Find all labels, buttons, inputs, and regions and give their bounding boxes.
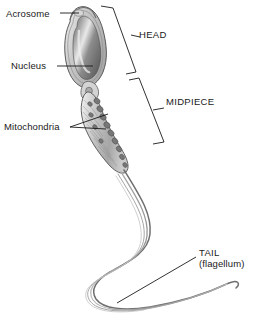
head-bracket (101, 6, 136, 74)
tail-strand-mid (91, 172, 227, 310)
label-head: HEAD (139, 29, 167, 40)
tail-strand-inner (88, 174, 225, 311)
sperm-cell-diagram: Acrosome Nucleus Mitochondria HEAD MIDPI… (0, 0, 253, 320)
midpiece-bracket (129, 78, 164, 144)
midpiece-bracket-tick (153, 108, 164, 110)
sperm-cell-illustration (0, 0, 253, 320)
label-mitochondria: Mitochondria (4, 121, 60, 132)
head-group (65, 7, 107, 88)
label-midpiece: MIDPIECE (166, 96, 214, 107)
label-nucleus: Nucleus (11, 60, 46, 71)
brackets (101, 6, 164, 144)
label-tail: TAIL (flagellum) (199, 247, 244, 269)
label-tail-sub: (flagellum) (199, 258, 244, 269)
leader-tail (117, 257, 196, 303)
label-acrosome: Acrosome (6, 8, 50, 19)
label-tail-main: TAIL (199, 247, 244, 258)
midpiece-group (81, 92, 128, 173)
tail-group (86, 170, 239, 312)
